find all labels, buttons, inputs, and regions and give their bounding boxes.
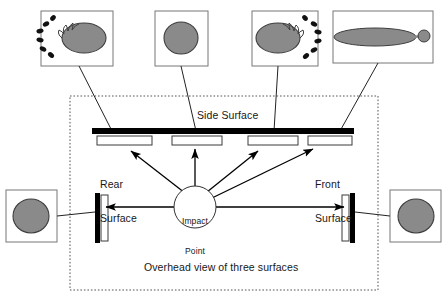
callout-right-leader-line	[355, 212, 390, 216]
target-strip-3	[248, 136, 298, 145]
arrow-to-strip-1	[131, 151, 185, 193]
trajectory-arrows	[106, 149, 344, 207]
front-surface-label-line1: Front	[315, 179, 352, 190]
arrow-to-strip-3	[207, 151, 258, 192]
front-surface-label-line2: Surface	[315, 213, 352, 224]
rear-surface-label-line1: Rear	[100, 179, 137, 190]
callout-right-stain	[398, 199, 434, 233]
callout-left	[6, 190, 95, 242]
callout-1-leader-line	[79, 66, 112, 131]
target-strip-2	[172, 136, 222, 145]
callout-2-stain	[164, 22, 198, 54]
arrow-to-strip-4	[212, 149, 313, 198]
callout-left-stain	[13, 199, 49, 233]
callout-right	[355, 190, 441, 242]
impact-point-label-line2: Point	[168, 246, 222, 256]
callout-left-leader-line	[57, 212, 95, 216]
callout-3-leader-line	[274, 66, 278, 131]
side-surface-label: Side Surface	[197, 110, 258, 121]
impact-point-label-line1: Impact	[168, 216, 222, 226]
side-surface-wall	[92, 128, 354, 134]
callout-4-stain	[334, 28, 416, 46]
callout-4-leader-line	[340, 63, 378, 131]
target-strip-1	[97, 136, 152, 145]
callout-4-detached-droplet	[418, 30, 430, 42]
figure-canvas: Side Surface Rear Surface Front Surface …	[0, 0, 448, 308]
callout-1	[36, 11, 113, 131]
callout-3	[252, 11, 322, 131]
rear-surface-label: Rear Surface	[100, 156, 137, 247]
front-surface-label: Front Surface	[315, 156, 352, 247]
callout-2-leader-line	[181, 66, 196, 131]
callout-4	[333, 11, 433, 131]
target-strip-4	[308, 136, 352, 145]
rear-surface-label-line2: Surface	[100, 213, 137, 224]
overhead-view-caption: Overhead view of three surfaces	[144, 262, 298, 273]
